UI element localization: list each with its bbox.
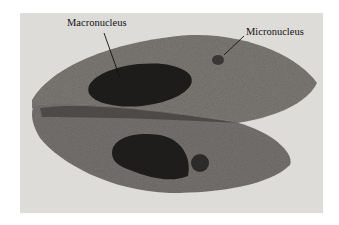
micronucleus-label: Micronucleus [246, 26, 304, 37]
micronucleus-pointer [224, 36, 244, 55]
macronucleus-pointer [104, 33, 120, 78]
macronucleus-label: Macronucleus [67, 17, 126, 28]
